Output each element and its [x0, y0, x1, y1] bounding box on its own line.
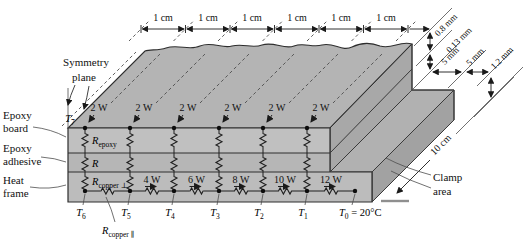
symmetry-arrow-right — [84, 86, 89, 109]
flow-label-4w: 4 W — [144, 174, 161, 185]
heat-source-label-1: 2 W — [136, 102, 153, 113]
heat-source-label-5: 2 W — [313, 102, 330, 113]
dim-1cm-label-5: 1 cm — [376, 12, 396, 23]
epoxy-board-leader — [33, 127, 66, 137]
epoxy-adhesive-label-2: adhesive — [3, 155, 42, 167]
flow-label-8w: 8 W — [233, 174, 250, 185]
epoxy-board-label-1: Epoxy — [3, 109, 32, 121]
flow-label-6w: 6 W — [188, 174, 205, 185]
node-label-t5: T5 — [121, 207, 131, 221]
dim-label-1.2mm: 1.2 mm — [489, 45, 516, 72]
clamp-area-group: Clamp area — [386, 158, 463, 197]
node-label-t3: T3 — [210, 207, 220, 221]
r-adhesive-label: R — [91, 158, 99, 169]
symmetry-label-line1: Symmetry — [63, 56, 109, 68]
top-dimension-group: 1 cm 1 cm 1 cm 1 cm 1 cm 1 cm — [129, 12, 429, 41]
dim-label-5mm-b: 5 mm — [464, 46, 486, 68]
dim-1cm-label-1: 1 cm — [198, 12, 218, 23]
figure-canvas: Symmetry plane 1 cm 1 cm 1 cm 1 cm 1 cm … — [0, 0, 523, 251]
epoxy-board-label-2: board — [3, 122, 29, 134]
node-label-t4: T4 — [165, 207, 175, 221]
node-label-t6: T6 — [76, 207, 86, 221]
node-label-t2: T2 — [254, 207, 264, 221]
heat-source-label-2: 2 W — [180, 102, 197, 113]
symmetry-label-line2: plane — [72, 71, 96, 83]
heat-source-label-0: 2 W — [91, 102, 108, 113]
clamp-label-line2: area — [433, 185, 451, 197]
dimension-diagonal-stubs — [129, 20, 417, 41]
flow-label-10w: 10 W — [274, 174, 296, 185]
heat-source-label-4: 2 W — [269, 102, 286, 113]
heat-frame-label-1: Heat — [3, 174, 24, 186]
heat-frame-diagram: Symmetry plane 1 cm 1 cm 1 cm 1 cm 1 cm … — [0, 0, 523, 251]
r-copper-parallel-label: Rcopper ∥ — [101, 225, 134, 239]
dim-1cm-label-4: 1 cm — [331, 12, 351, 23]
front-face-adhesive — [68, 153, 330, 172]
layer-labels-group: Epoxy board Epoxy adhesive Heat frame — [3, 109, 66, 199]
dim-1cm-label-0: 1 cm — [153, 12, 173, 23]
heat-frame-leader — [30, 185, 66, 188]
node-label-t7: T7 — [65, 113, 75, 127]
flow-label-12w: 12 W — [320, 174, 342, 185]
dim-label-0.8mm: 0.8 mm — [433, 12, 460, 39]
symmetry-arrow-left — [68, 85, 75, 105]
dim-1cm-label-3: 1 cm — [287, 12, 307, 23]
clamp-label-line1: Clamp — [433, 171, 463, 183]
depth-dim-line — [456, 67, 523, 134]
heat-source-label-3: 2 W — [225, 102, 242, 113]
epoxy-adhesive-leader — [41, 157, 66, 162]
epoxy-adhesive-label-1: Epoxy — [3, 142, 32, 154]
node-label-t0: T0 = 20°C — [339, 207, 381, 221]
node-label-t1: T1 — [298, 207, 308, 221]
heat-frame-label-2: frame — [3, 187, 29, 199]
dim-1cm-label-2: 1 cm — [242, 12, 262, 23]
